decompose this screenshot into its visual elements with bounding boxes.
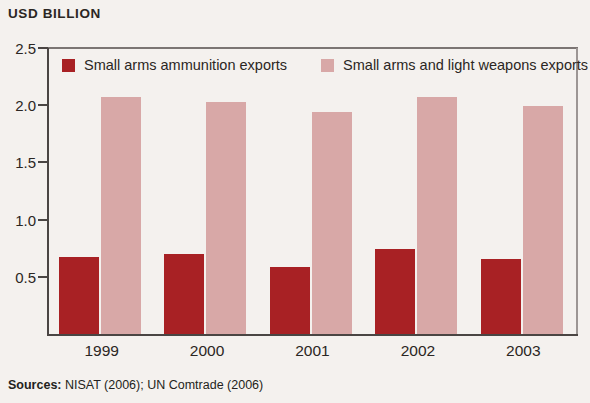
bar-ammunition xyxy=(270,267,310,334)
x-axis-label: 2001 xyxy=(260,342,365,360)
y-axis-tick xyxy=(38,276,48,278)
chart-figure: USD BILLION 0.51.01.52.02.5 199920002001… xyxy=(0,0,590,403)
chart-legend: Small arms ammunition exports Small arms… xyxy=(62,57,588,73)
bar-small-arms xyxy=(101,97,141,334)
bar-ammunition xyxy=(59,257,99,334)
y-axis-tick xyxy=(38,47,48,49)
y-axis-tick xyxy=(38,219,48,221)
legend-label-small-arms: Small arms and light weapons exports xyxy=(343,57,588,73)
y-axis-label: 0.5 xyxy=(0,268,36,285)
bar-group xyxy=(260,48,365,334)
y-axis-label: 1.0 xyxy=(0,211,36,228)
y-axis-tick xyxy=(38,161,48,163)
bar-small-arms xyxy=(312,112,352,334)
x-axis-label: 2002 xyxy=(365,342,470,360)
bar-group xyxy=(471,48,576,334)
chart-axis-title: USD BILLION xyxy=(8,6,101,21)
sources-label: Sources: xyxy=(8,378,62,392)
x-axis-label: 2003 xyxy=(471,342,576,360)
y-axis-label: 2.5 xyxy=(0,40,36,57)
legend-label-ammunition: Small arms ammunition exports xyxy=(84,57,287,73)
bar-small-arms xyxy=(206,102,246,334)
legend-item-small-arms: Small arms and light weapons exports xyxy=(321,57,588,73)
y-axis-label: 1.5 xyxy=(0,154,36,171)
bar-group xyxy=(365,48,470,334)
y-axis-label: 2.0 xyxy=(0,97,36,114)
sources-note: Sources: NISAT (2006); UN Comtrade (2006… xyxy=(8,378,263,392)
legend-swatch-icon-ammunition xyxy=(62,59,75,72)
bar-series-container xyxy=(49,48,576,334)
bar-group xyxy=(49,48,154,334)
x-axis-label: 1999 xyxy=(49,342,154,360)
bar-ammunition xyxy=(164,254,204,334)
bar-small-arms xyxy=(417,97,457,334)
y-axis-tick xyxy=(38,104,48,106)
x-axis-label: 2000 xyxy=(154,342,259,360)
bar-group xyxy=(154,48,259,334)
sources-text: NISAT (2006); UN Comtrade (2006) xyxy=(62,378,264,392)
bar-ammunition xyxy=(375,249,415,334)
bar-small-arms xyxy=(523,106,563,334)
legend-item-ammunition: Small arms ammunition exports xyxy=(62,57,287,73)
bar-ammunition xyxy=(481,259,521,335)
legend-swatch-icon-small-arms xyxy=(321,59,334,72)
